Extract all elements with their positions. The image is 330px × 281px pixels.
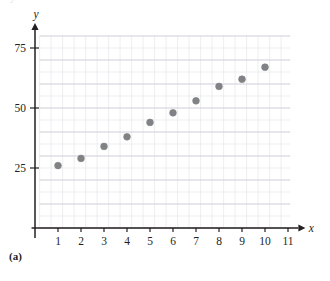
x-tick-label-4: 4 [124, 235, 130, 247]
data-point [193, 97, 200, 104]
panel-label: (a) [9, 250, 22, 262]
y-tick-label-50: 50 [15, 102, 27, 114]
data-point [170, 109, 177, 116]
x-tick-label-7: 7 [193, 235, 199, 247]
scatter-plot-canvas: 1234567891011 255075 xy [0, 0, 330, 281]
x-tick-label-8: 8 [216, 235, 222, 247]
data-point [78, 155, 85, 162]
axis-name-labels: xy [32, 8, 314, 234]
x-tick-label-1: 1 [55, 235, 61, 247]
data-point [147, 119, 154, 126]
data-point [124, 133, 131, 140]
x-axis-name: x [308, 222, 315, 234]
x-axis-tick-labels: 1234567891011 [55, 235, 294, 247]
y-tick-label-25: 25 [15, 162, 27, 174]
scatter-plot-figure: y 1234567891011 255075 xy (a) [0, 0, 330, 281]
grid-major-lines [40, 36, 291, 228]
data-points [55, 64, 269, 169]
x-tick-label-9: 9 [239, 235, 245, 247]
axis-lines [31, 23, 305, 238]
data-point [262, 64, 269, 71]
data-point [239, 76, 246, 83]
x-tick-label-11: 11 [282, 235, 293, 247]
x-tick-label-3: 3 [101, 235, 107, 247]
y-tick-label-75: 75 [15, 42, 27, 54]
data-point [216, 83, 223, 90]
data-point [55, 162, 62, 169]
y-axis-name: y [32, 8, 39, 21]
x-tick-label-10: 10 [259, 235, 271, 247]
data-point [101, 143, 108, 150]
x-tick-label-2: 2 [78, 235, 84, 247]
y-axis-tick-labels: 255075 [15, 42, 27, 174]
x-tick-label-5: 5 [147, 235, 153, 247]
x-tick-label-6: 6 [170, 235, 176, 247]
